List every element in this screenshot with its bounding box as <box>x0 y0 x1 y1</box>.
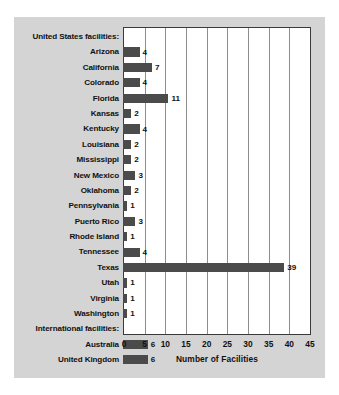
bar-track: 4 <box>123 75 325 90</box>
bar <box>123 155 131 164</box>
bar-value-label: 11 <box>171 93 180 104</box>
category-label: Puerto Rico <box>14 214 123 229</box>
bar-track: 2 <box>123 152 325 167</box>
category-label: Oklahoma <box>14 183 123 198</box>
bar-value-label: 2 <box>134 139 139 150</box>
category-label: Kentucky <box>14 121 123 136</box>
bar <box>123 278 127 287</box>
bar-row: Florida11 <box>14 91 325 106</box>
x-tick-label: 10 <box>161 339 170 349</box>
bar-row: Colorado4 <box>14 75 325 90</box>
category-label: Virginia <box>14 291 123 306</box>
bar-value-label: 7 <box>155 62 160 73</box>
bar-track: 1 <box>123 275 325 290</box>
bar-value-label: 3 <box>138 216 143 227</box>
x-tick-label: 45 <box>305 339 314 349</box>
bar-value-label: 39 <box>287 262 296 273</box>
bar <box>123 171 135 180</box>
bar <box>123 47 140 56</box>
bar-row: Louisiana2 <box>14 137 325 152</box>
bar-value-label: 2 <box>134 185 139 196</box>
bar <box>123 140 131 149</box>
x-tick-label: 5 <box>142 339 147 349</box>
bar-rows: United States facilities:Arizona4Califor… <box>14 29 325 368</box>
x-tick-label: 30 <box>243 339 252 349</box>
bar-track <box>123 321 325 336</box>
bar-row: Pennsylvania1 <box>14 198 325 213</box>
category-label: Washington <box>14 306 123 321</box>
bar-track: 3 <box>123 168 325 183</box>
bar <box>123 94 168 103</box>
bar-value-label: 1 <box>130 293 135 304</box>
bar-track: 3 <box>123 214 325 229</box>
bar-track: 2 <box>123 137 325 152</box>
category-label: United Kingdom <box>14 352 123 367</box>
bar-row: Virginia1 <box>14 291 325 306</box>
bar <box>123 309 127 318</box>
bar-row: Oklahoma2 <box>14 183 325 198</box>
x-tick-label: 0 <box>122 339 127 349</box>
bar-track: 4 <box>123 121 325 136</box>
category-label: Rhode Island <box>14 229 123 244</box>
x-axis-title: Number of Facilities <box>123 354 311 364</box>
bar-value-label: 4 <box>143 77 148 88</box>
bar-value-label: 1 <box>130 277 135 288</box>
category-label: Arizona <box>14 44 123 59</box>
bar-track <box>123 29 325 44</box>
bar <box>123 201 127 210</box>
bar <box>123 78 140 87</box>
bar-track: 2 <box>123 106 325 121</box>
x-axis-ticks: 051015202530354045 <box>123 339 311 351</box>
bar-track: 1 <box>123 306 325 321</box>
category-label: Mississippi <box>14 152 123 167</box>
bar-row: New Mexico3 <box>14 168 325 183</box>
bar <box>123 294 127 303</box>
bar-value-label: 2 <box>134 154 139 165</box>
group-header-row: United States facilities: <box>14 29 325 44</box>
category-label: Florida <box>14 91 123 106</box>
bar <box>123 263 284 272</box>
x-tick-label: 20 <box>202 339 211 349</box>
bar-value-label: 4 <box>143 47 148 58</box>
bar <box>123 109 131 118</box>
bar-track: 11 <box>123 91 325 106</box>
bar-row: Washington1 <box>14 306 325 321</box>
bar-row: Puerto Rico3 <box>14 214 325 229</box>
bar-row: Texas39 <box>14 260 325 275</box>
bar-value-label: 1 <box>130 200 135 211</box>
category-label: Tennessee <box>14 244 123 259</box>
bar-track: 1 <box>123 291 325 306</box>
category-label: New Mexico <box>14 168 123 183</box>
bar-track: 2 <box>123 183 325 198</box>
bar-track: 39 <box>123 260 325 275</box>
bar-row: Kansas2 <box>14 106 325 121</box>
x-tick-label: 25 <box>223 339 232 349</box>
x-tick-label: 35 <box>264 339 273 349</box>
bar-value-label: 2 <box>134 108 139 119</box>
bar <box>123 232 127 241</box>
bar-row: Mississippi2 <box>14 152 325 167</box>
bar-value-label: 1 <box>130 308 135 319</box>
bar-value-label: 1 <box>130 231 135 242</box>
bar-row: California7 <box>14 60 325 75</box>
x-tick-label: 40 <box>285 339 294 349</box>
bar-track: 4 <box>123 244 325 259</box>
category-label: Texas <box>14 260 123 275</box>
category-label: Colorado <box>14 75 123 90</box>
bar-row: Kentucky4 <box>14 121 325 136</box>
bar-track: 1 <box>123 198 325 213</box>
category-label: Kansas <box>14 106 123 121</box>
bar <box>123 63 152 72</box>
bar <box>123 186 131 195</box>
bar-track: 4 <box>123 44 325 59</box>
category-label: Australia <box>14 337 123 352</box>
x-tick-label: 15 <box>181 339 190 349</box>
facilities-bar-chart: United States facilities:Arizona4Califor… <box>14 17 325 378</box>
group-header-row: International facilities: <box>14 321 325 336</box>
bar <box>123 124 140 133</box>
bar-value-label: 4 <box>143 247 148 258</box>
bar <box>123 248 140 257</box>
category-label: Pennsylvania <box>14 198 123 213</box>
bar-row: Rhode Island1 <box>14 229 325 244</box>
bar-track: 1 <box>123 229 325 244</box>
